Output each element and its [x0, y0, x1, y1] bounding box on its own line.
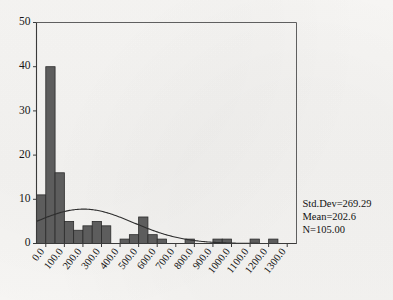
x-tick-label: 100.0 — [42, 246, 65, 271]
histogram-bar — [129, 235, 138, 244]
x-tick-label: 600.0 — [135, 246, 158, 271]
histogram-bar — [148, 235, 157, 244]
histogram-bar — [74, 230, 83, 243]
histogram-bar — [55, 173, 64, 244]
histogram-bar — [92, 221, 101, 243]
histogram-svg: 01020304050 0.0100.0200.0300.0400.0500.0… — [0, 0, 393, 300]
statistics-annotation: Std.Dev=269.29Mean=202.6N=105.00 — [303, 198, 372, 235]
histogram-chart: 01020304050 0.0100.0200.0300.0400.0500.0… — [0, 0, 393, 300]
x-tick-label: 200.0 — [60, 246, 83, 271]
histogram-bar — [157, 239, 166, 243]
x-tick-label: 400.0 — [97, 246, 120, 271]
histogram-bar — [139, 217, 148, 244]
y-axis-ticks: 01020304050 — [19, 15, 37, 248]
statistic-line: Std.Dev=269.29 — [303, 198, 372, 209]
chart-axes — [37, 23, 297, 244]
axis-lines — [37, 23, 297, 244]
histogram-bar — [102, 226, 111, 244]
y-tick-label: 10 — [19, 192, 31, 204]
statistic-line: Mean=202.6 — [303, 211, 356, 222]
histogram-bar — [64, 221, 73, 243]
x-tick-label: 700.0 — [153, 246, 176, 271]
x-tick-label: 300.0 — [79, 246, 102, 271]
histogram-bar — [269, 239, 278, 243]
y-tick-label: 20 — [19, 148, 31, 160]
x-tick-label: 500.0 — [116, 246, 139, 271]
y-tick-label: 0 — [25, 236, 31, 248]
y-tick-label: 40 — [19, 59, 31, 71]
x-tick-label: 800.0 — [172, 246, 195, 271]
y-tick-label: 30 — [19, 104, 31, 116]
plot-frame — [37, 23, 297, 244]
statistic-line: N=105.00 — [303, 224, 345, 235]
histogram-bar — [83, 226, 92, 244]
histogram-bar — [120, 239, 129, 243]
histogram-bars — [37, 67, 278, 244]
y-tick-label: 50 — [19, 15, 31, 27]
x-axis-ticks: 0.0100.0200.0300.0400.0500.0600.0700.080… — [30, 244, 288, 276]
